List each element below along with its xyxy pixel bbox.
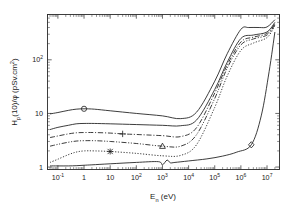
chart-background	[0, 0, 288, 218]
x-tick-labels: 10-1110102103104105106107	[52, 172, 273, 182]
figure-container: 10-1110102103104105106107 110102 En (eV)…	[0, 0, 288, 218]
x-tick-label: 10	[106, 173, 114, 182]
marker-x-iso	[107, 148, 113, 154]
x-tick-label: 1	[82, 173, 86, 182]
y-tick-label: 10	[35, 109, 43, 118]
neutron-dose-conversion-chart: 10-1110102103104105106107 110102 En (eV)…	[0, 0, 288, 218]
y-tick-label: 1	[39, 163, 43, 172]
